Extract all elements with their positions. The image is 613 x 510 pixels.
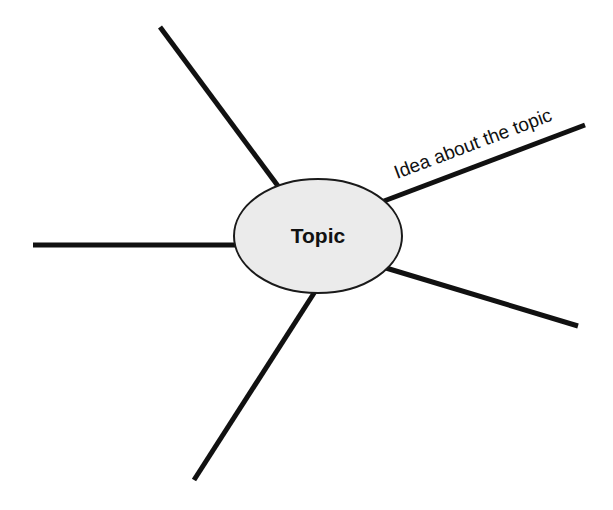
spoke-lower-left — [194, 290, 316, 480]
spider-map-diagram: Topic Idea about the topic — [0, 0, 613, 510]
spoke-upper-left — [160, 27, 278, 186]
spoke-lower-right — [386, 268, 578, 326]
topic-label: Topic — [291, 224, 346, 247]
